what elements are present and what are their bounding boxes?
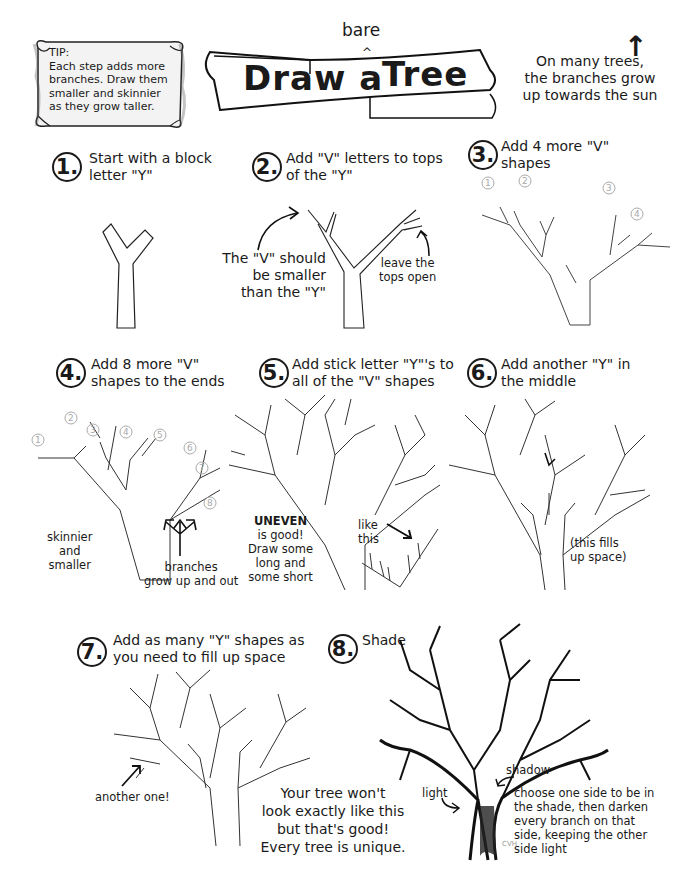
closing-message: Your tree won't look exactly like this b…	[258, 784, 408, 856]
note-text: up space)	[570, 550, 626, 564]
note-text: leave the	[379, 256, 436, 270]
step-2-title: Add "V" letters to tops of the "Y"	[286, 150, 443, 184]
step-7-number: 7.	[77, 637, 107, 667]
closing-line: Every tree is unique.	[258, 838, 408, 856]
step-4-title: Add 8 more "V" shapes to the ends	[91, 356, 225, 390]
step-text: Add 8 more "V"	[91, 356, 225, 373]
svg-text:3: 3	[90, 425, 96, 435]
note-text: side light	[514, 842, 654, 856]
stick-y-example	[360, 525, 440, 590]
closing-line: but that's good!	[258, 820, 408, 838]
step-1-number: 1.	[52, 152, 82, 182]
note-text: every branch on that	[514, 814, 654, 828]
step-5-number: 5.	[259, 358, 289, 388]
svg-text:2: 2	[522, 176, 528, 186]
svg-text:7: 7	[199, 463, 205, 473]
tip-line: Each step adds more	[49, 60, 179, 74]
tip-line: smaller and skinnier	[49, 87, 179, 101]
step-4-number: 4.	[56, 358, 86, 388]
note-text: skinnier	[47, 530, 92, 544]
note-text: be smaller	[220, 267, 326, 284]
step-3-number: 3.	[468, 140, 498, 170]
note-text: UNEVEN	[248, 514, 313, 528]
curved-arrow-icon	[415, 228, 435, 258]
title-draw-a: Draw a	[243, 58, 383, 98]
note-another-one: another one!	[95, 790, 170, 804]
note-skinnier: skinnier and smaller	[47, 530, 92, 572]
note-uneven: UNEVEN is good! Draw some long and some …	[248, 514, 313, 584]
step-text: Add another "Y" in	[501, 356, 630, 373]
tip-heading: TIP:	[49, 46, 179, 60]
step-1-tree	[95, 220, 165, 330]
closing-line: Your tree won't	[258, 784, 408, 802]
note-choose-side: choose one side to be in the shade, then…	[514, 786, 654, 856]
step-text: the middle	[501, 373, 630, 390]
sun-note-line: the branches grow	[510, 70, 670, 87]
note-fills: (this fills up space)	[570, 536, 626, 564]
step-text: Start with a block	[89, 150, 212, 167]
step-6-number: 6.	[467, 358, 497, 388]
step-8-number: 8.	[328, 634, 358, 664]
curved-arrow-icon	[255, 205, 305, 255]
step-text: shapes	[501, 155, 609, 172]
step-text: you need to fill up space	[113, 649, 304, 666]
svg-text:8: 8	[207, 498, 213, 508]
title-insert-bare: bare	[342, 20, 380, 40]
svg-text:4: 4	[634, 209, 640, 219]
note-v-smaller: The "V" should be smaller than the "Y"	[220, 250, 326, 301]
step-text: Add 4 more "V"	[501, 138, 609, 155]
note-text: is good!	[248, 528, 313, 542]
tip-line: as they grow taller.	[49, 100, 179, 114]
note-text: than the "Y"	[220, 284, 326, 301]
svg-text:2: 2	[68, 413, 74, 423]
step-text: shapes to the ends	[91, 373, 225, 390]
step-text: letter "Y"	[89, 167, 212, 184]
note-text: choose one side to be in	[514, 786, 654, 800]
svg-text:1: 1	[485, 178, 491, 188]
curved-arrow-icon	[494, 773, 516, 789]
step-7-title: Add as many "Y" shapes as you need to fi…	[113, 632, 304, 666]
note-text: Draw some	[248, 542, 313, 556]
note-text: long and	[248, 556, 313, 570]
note-text: The "V" should	[220, 250, 326, 267]
step-3-tree: 1 2 3 4	[480, 175, 660, 335]
note-text: some short	[248, 570, 313, 584]
closing-line: look exactly like this	[258, 802, 408, 820]
branch-arrows-icon	[162, 512, 198, 556]
step-6-title: Add another "Y" in the middle	[501, 356, 630, 390]
title-tree: Tree	[382, 54, 468, 94]
pointer-arrow-icon	[120, 762, 144, 788]
step-text: all of the "V" shapes	[292, 373, 454, 390]
step-3-title: Add 4 more "V" shapes	[501, 138, 609, 172]
step-text: Add as many "Y" shapes as	[113, 632, 304, 649]
step-1-title: Start with a block letter "Y"	[89, 150, 212, 184]
step-5-title: Add stick letter "Y"'s to all of the "V"…	[292, 356, 454, 390]
note-text: and	[47, 544, 92, 558]
title-caret: ^	[362, 46, 372, 60]
sun-note-line: up towards the sun	[510, 87, 670, 104]
note-text: smaller	[47, 558, 92, 572]
curved-arrow-icon	[440, 796, 464, 814]
step-text: Add stick letter "Y"'s to	[292, 356, 454, 373]
note-text: the shade, then darken	[514, 800, 654, 814]
note-text: tops open	[379, 270, 436, 284]
svg-text:1: 1	[35, 435, 41, 445]
tip-line: branches. Draw them	[49, 73, 179, 87]
up-arrow-icon: ↑	[624, 30, 647, 63]
note-tops-open: leave the tops open	[379, 256, 436, 284]
svg-text:6: 6	[187, 443, 193, 453]
svg-text:5: 5	[157, 430, 163, 440]
svg-text:3: 3	[606, 183, 612, 193]
note-text: side, keeping the other	[514, 828, 654, 842]
step-text: of the "Y"	[286, 167, 443, 184]
step-text: Add "V" letters to tops	[286, 150, 443, 167]
note-text: (this fills	[570, 536, 626, 550]
svg-text:4: 4	[123, 427, 129, 437]
step-2-number: 2.	[252, 152, 282, 182]
